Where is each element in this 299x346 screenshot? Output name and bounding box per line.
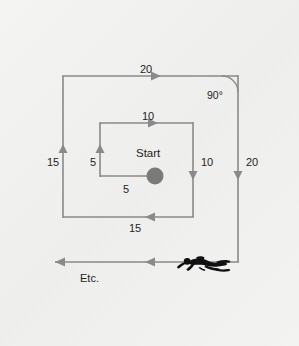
arrowhead-outer-left-up [59,144,68,153]
label-outer-right-20: 20 [246,157,258,168]
label-inner-up-5: 5 [90,157,96,168]
label-inner-bottom-15: 15 [129,223,141,234]
arrowhead-outer-bottom-left-end [55,258,65,267]
label-etc: Etc. [80,273,99,284]
label-inner-right-5: 5 [123,184,129,195]
label-outer-left-15: 15 [47,157,59,168]
dive-pattern-figure: 20 90° 10 15 5 Start 10 20 5 15 Etc. [0,0,299,346]
start-dot [147,168,164,185]
arrowhead-inner-bottom-left [145,213,155,222]
label-right-angle: 90° [207,90,223,101]
scuba-diver-icon [177,256,230,271]
arrowhead-outer-bottom-left-mid [145,258,155,267]
arrowhead-outer-right-down [234,171,243,180]
pattern-svg [0,0,299,346]
arrowhead-outer-top-right [151,72,161,81]
start-label: Start [136,148,160,160]
label-inner-right-10: 10 [201,157,213,168]
right-angle-arc [222,76,238,92]
label-inner-top-10: 10 [142,111,154,122]
label-outer-top-20: 20 [140,64,152,75]
path-lines [55,75,239,262]
arrowhead-inner-up [96,144,105,153]
arrowhead-inner-right-down [189,171,198,180]
